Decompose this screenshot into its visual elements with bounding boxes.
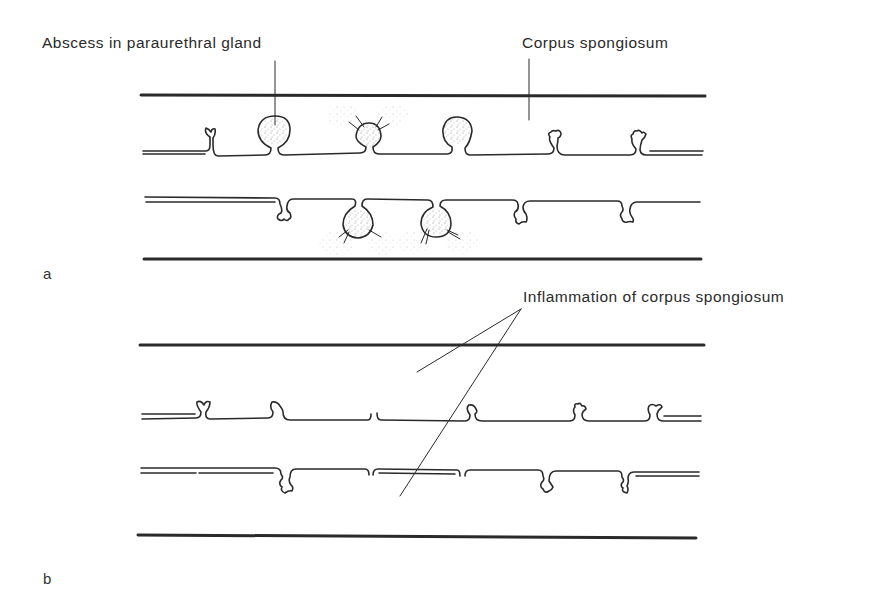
panel-a — [141, 59, 705, 259]
urethra-upper-wall-a — [143, 116, 703, 156]
panel-b — [138, 309, 704, 538]
leader-line-inflammation-2 — [400, 309, 521, 496]
urethra-upper-wall-b — [142, 401, 701, 421]
corpus-top-boundary-a — [141, 95, 705, 96]
corpus-bottom-boundary-b — [138, 535, 696, 538]
urethra-cross-section-diagram — [0, 0, 896, 594]
urethra-lower-wall-b — [141, 468, 699, 493]
leader-line-inflammation-1 — [417, 309, 521, 372]
